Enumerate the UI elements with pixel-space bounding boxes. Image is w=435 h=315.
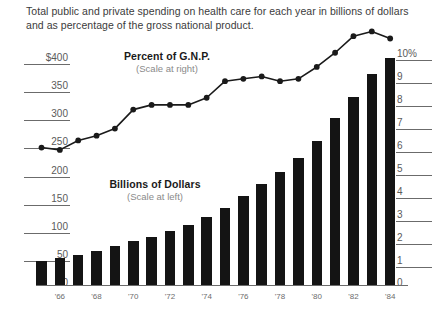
line-marker	[222, 78, 228, 84]
bar	[36, 261, 47, 285]
y-axis-left-tick-rule	[24, 233, 70, 234]
y-axis-left-tick: 350	[12, 80, 70, 93]
x-axis-tick-label: '80	[304, 292, 330, 301]
bar	[385, 58, 396, 285]
line-marker	[94, 133, 100, 139]
x-axis-tick-label: '74	[194, 292, 220, 301]
y-axis-left-tick-label: 250	[12, 136, 70, 148]
y-axis-right-tick-rule	[396, 175, 432, 176]
y-axis-right-tick-label: 9	[396, 71, 435, 83]
plot-area: $400 350 300 250 200 150 100 50	[0, 0, 435, 315]
line-marker	[387, 36, 393, 42]
y-axis-right-tick-rule	[396, 198, 432, 199]
y-axis-right-tick-label: 6	[396, 140, 435, 152]
bar	[275, 172, 286, 285]
y-axis-right-tick: 0	[396, 277, 435, 289]
bar-series-annotation-note: (Scale at left)	[80, 191, 230, 202]
y-axis-right-tick-rule	[396, 129, 432, 130]
bar	[348, 97, 359, 285]
y-axis-right-tick-label: 7	[396, 117, 435, 129]
y-axis-right-tick-label: 0	[396, 277, 435, 289]
bar	[128, 241, 139, 285]
line-marker	[332, 50, 338, 56]
y-axis-left-tick-label: 150	[12, 193, 70, 205]
y-axis-left-tick-label: 300	[12, 108, 70, 120]
y-axis-right-tick-label: 8	[396, 94, 435, 106]
y-axis-left-tick: 300	[12, 108, 70, 121]
y-axis-right-tick: 8	[396, 94, 435, 107]
line-series-annotation-note: (Scale at right)	[92, 63, 242, 74]
line-marker	[112, 126, 118, 132]
bar	[293, 158, 304, 285]
y-axis-left-tick-label: 350	[12, 80, 70, 92]
x-axis-tick-label: '76	[230, 292, 256, 301]
y-axis-right-tick: 9	[396, 71, 435, 84]
y-axis-right-tick-label: 2	[396, 232, 435, 244]
y-axis-right-tick: 1	[396, 255, 435, 268]
x-axis-tick-label: '72	[157, 292, 183, 301]
y-axis-left-tick-rule	[24, 64, 70, 65]
bar	[55, 258, 66, 285]
bar	[146, 237, 157, 285]
y-axis-right-tick-rule	[396, 244, 432, 245]
line-marker	[259, 74, 265, 80]
line-marker	[204, 95, 210, 101]
y-axis-right-tick-label: 4	[396, 186, 435, 198]
bar-series-annotation: Billions of Dollars (Scale at left)	[80, 178, 230, 202]
y-axis-right-tick-label: 3	[396, 209, 435, 221]
y-axis-left-tick: 100	[12, 221, 70, 234]
x-axis-tick-label: '82	[340, 292, 366, 301]
x-axis-tick-label: '70	[120, 292, 146, 301]
bar	[91, 251, 102, 285]
line-marker	[296, 76, 302, 82]
line-marker	[130, 107, 136, 113]
y-axis-right-tick: 7	[396, 117, 435, 130]
line-marker	[240, 76, 246, 82]
line-marker	[314, 64, 320, 70]
x-axis-baseline	[36, 285, 408, 286]
y-axis-right-tick: 5	[396, 163, 435, 176]
bar	[201, 217, 212, 285]
y-axis-left-tick-label: 200	[12, 165, 70, 177]
y-axis-right-tick-rule	[396, 106, 432, 107]
x-axis-tick-label: '66	[47, 292, 73, 301]
y-axis-right-tick-rule	[396, 152, 432, 153]
y-axis-left-tick-rule	[24, 92, 70, 93]
bar	[312, 141, 323, 285]
bar	[110, 246, 121, 285]
y-axis-right-tick-label: 10%	[396, 48, 435, 60]
line-marker	[185, 102, 191, 108]
x-axis-tick-label: '84	[377, 292, 403, 301]
x-axis-tick-label: '78	[267, 292, 293, 301]
y-axis-right-tick: 3	[396, 209, 435, 222]
bar	[330, 118, 341, 285]
y-axis-left-tick: 200	[12, 165, 70, 178]
line-marker	[277, 78, 283, 84]
y-axis-right-tick: 2	[396, 232, 435, 245]
bar	[165, 231, 176, 285]
bar	[183, 225, 194, 285]
y-axis-left-tick-rule	[24, 148, 70, 149]
y-axis-left-tick: 250	[12, 136, 70, 149]
bar	[220, 208, 231, 285]
y-axis-right-tick: 4	[396, 186, 435, 199]
y-axis-right-tick: 6	[396, 140, 435, 153]
x-axis-tick-label: '68	[84, 292, 110, 301]
bar	[73, 255, 84, 285]
line-marker	[167, 102, 173, 108]
y-axis-right-tick-rule	[396, 60, 432, 61]
line-marker	[351, 33, 357, 39]
y-axis-left-tick-label: 100	[12, 221, 70, 233]
bar	[238, 196, 249, 285]
y-axis-right-tick: 10%	[396, 48, 435, 61]
line-series-annotation: Percent of G.N.P. (Scale at right)	[92, 50, 242, 74]
y-axis-right-tick-label: 1	[396, 255, 435, 267]
y-axis-right-tick-label: 5	[396, 163, 435, 175]
y-axis-right-tick-rule	[396, 221, 432, 222]
y-axis-left-tick-label: $400	[12, 52, 70, 64]
y-axis-right-tick-rule	[396, 267, 432, 268]
y-axis-right-tick-rule	[396, 83, 432, 84]
y-axis-left-tick-rule	[24, 205, 70, 206]
bar	[367, 74, 378, 285]
bar-series-annotation-title: Billions of Dollars	[80, 178, 230, 190]
